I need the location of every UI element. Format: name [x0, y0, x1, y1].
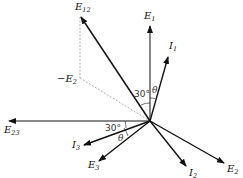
angle-arc-30-left [125, 121, 126, 128]
angle-label-30-left: 30° [105, 123, 121, 133]
dashed-line-neg-e2 [80, 78, 150, 121]
angle-label-30-top: 30° [134, 89, 150, 99]
label-i1: I1 [168, 40, 177, 53]
phasor-diagram: E1 I1 E12 E23 I3 E3 I2 E2 −E2 30° θ 30° … [0, 0, 243, 178]
label-e23: E23 [3, 124, 20, 137]
label-neg-e2: −E2 [57, 73, 77, 86]
phasor-e2 [150, 121, 224, 163]
label-e1: E1 [143, 10, 155, 23]
angle-label-theta-left: θ [118, 133, 124, 143]
angle-label-theta-top: θ [152, 85, 158, 95]
label-e2: E2 [226, 163, 238, 176]
phasor-e12 [81, 17, 150, 121]
label-i2: I2 [188, 167, 197, 178]
label-e12: E12 [74, 1, 91, 14]
angle-arc-theta-top [150, 98, 155, 99]
label-e3: E3 [87, 159, 99, 172]
phasor-i2 [150, 121, 186, 166]
angle-arc-30-top [141, 103, 150, 105]
label-i3: I3 [71, 139, 80, 152]
